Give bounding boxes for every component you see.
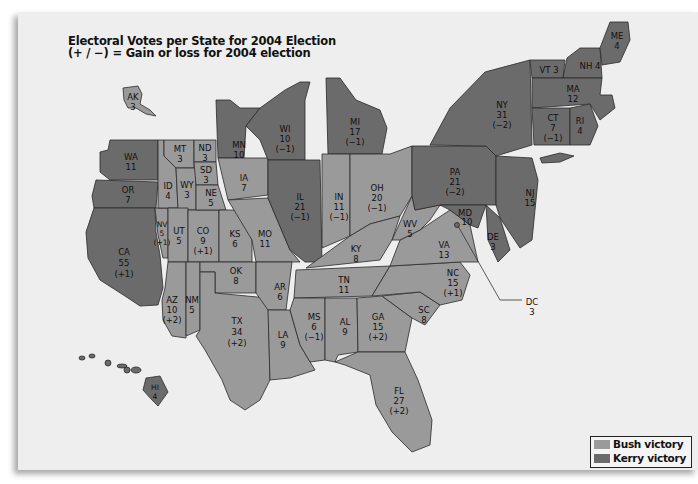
svg-text:VA13: VA13 (438, 240, 449, 260)
state-FL[interactable] (335, 352, 432, 452)
svg-text:MA12: MA12 (566, 84, 579, 104)
svg-text:TN11: TN11 (337, 275, 350, 295)
legend-label: Bush victory (613, 438, 683, 450)
long-island (540, 153, 574, 163)
bush-swatch (594, 440, 610, 449)
svg-text:DC3: DC3 (526, 297, 539, 317)
hi-island-5 (124, 367, 130, 373)
svg-text:WA11: WA11 (124, 152, 138, 172)
legend-item-bush: Bush victory (591, 437, 691, 451)
state-CA[interactable] (86, 208, 163, 306)
label-VT: VT 3 (539, 65, 558, 75)
hi-island-3 (105, 360, 111, 366)
legend: Bush victory Kerry victory (590, 436, 692, 468)
svg-text:NJ15: NJ15 (525, 188, 536, 208)
hi-island-1 (79, 356, 85, 360)
svg-text:MO11: MO11 (258, 229, 272, 249)
kerry-swatch (594, 454, 610, 463)
hi-island-2 (89, 354, 95, 358)
label-NH: NH 4 (580, 61, 601, 71)
hi-island-6 (131, 367, 141, 373)
legend-label: Kerry victory (613, 452, 686, 464)
svg-text:MN10: MN10 (232, 140, 246, 160)
legend-item-kerry: Kerry victory (591, 451, 691, 465)
us-electoral-map: AK3 WA11 OR7 CA55(+1) NV5(+1) ID4 MT3 WY… (0, 0, 698, 484)
state-NY[interactable] (430, 60, 532, 156)
